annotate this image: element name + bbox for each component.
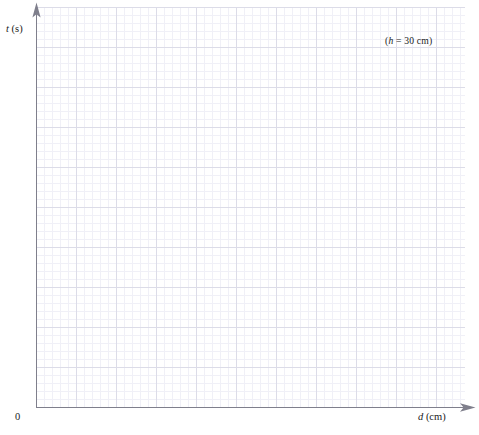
height-annotation: (h = 30 cm) (385, 36, 432, 46)
graph-figure: t (s) d (cm) 0 (h = 30 cm) (0, 0, 479, 435)
x-axis-arrowhead-icon (458, 399, 476, 416)
graph-paper-grid (36, 7, 465, 408)
annotation-value: 30 (404, 35, 414, 46)
annotation-close-paren: ) (429, 35, 432, 46)
y-axis-line (36, 12, 37, 408)
grid-inner (36, 7, 465, 408)
annotation-equals: = (393, 35, 404, 46)
x-axis-unit: (cm) (426, 411, 446, 422)
y-axis-label: t (s) (6, 24, 23, 35)
annotation-unit: cm (417, 35, 429, 46)
y-axis-arrowhead-icon (28, 2, 45, 18)
y-axis-unit: (s) (12, 23, 23, 34)
x-axis-label: d (cm) (418, 412, 446, 423)
x-axis-line (36, 407, 466, 408)
origin-label: 0 (15, 412, 20, 423)
